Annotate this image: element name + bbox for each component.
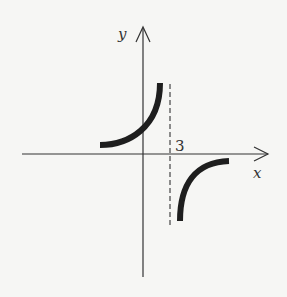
left-branch-curve xyxy=(100,83,160,145)
y-axis-label: y xyxy=(117,25,127,43)
diagram-canvas: y x 3 xyxy=(0,0,287,297)
asymptote-label: 3 xyxy=(175,137,185,155)
graph-svg: y x 3 xyxy=(0,0,287,297)
x-axis-label: x xyxy=(253,164,262,182)
right-branch-curve xyxy=(180,161,229,221)
